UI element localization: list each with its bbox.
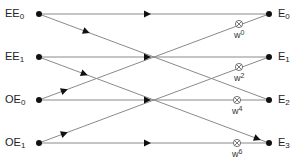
- output-label-e0: E0: [278, 8, 290, 21]
- multiply-icon: [233, 139, 240, 146]
- arrow-icon: [144, 140, 151, 147]
- input-label-oe0: OE0: [5, 94, 25, 107]
- twiddle-label-w2: w2: [234, 72, 244, 83]
- output-label-e1: E1: [278, 51, 290, 64]
- butterfly-diagram: [0, 0, 299, 164]
- input-label-ee0: EE0: [5, 8, 24, 21]
- arrow-icon: [144, 11, 151, 18]
- twiddle-label-w0: w0: [234, 29, 244, 40]
- node-e1: [266, 54, 272, 60]
- input-label-oe1: OE1: [5, 137, 25, 150]
- node-ee0: [36, 11, 42, 17]
- node-ee1: [36, 54, 42, 60]
- output-label-e3: E3: [278, 137, 290, 150]
- multiply-icon: [235, 20, 242, 27]
- input-label-ee1: EE1: [5, 51, 24, 64]
- node-e3: [266, 140, 272, 146]
- arrow-icon: [80, 69, 89, 78]
- arrow-icon: [60, 86, 69, 95]
- arrow-icon: [60, 129, 69, 138]
- multiply-icon: [233, 96, 240, 103]
- twiddle-label-w6: w6: [232, 148, 242, 159]
- node-e2: [266, 97, 272, 103]
- node-e0: [266, 11, 272, 17]
- twiddle-label-w4: w4: [232, 105, 242, 116]
- node-oe0: [36, 97, 42, 103]
- arrow-icon: [253, 134, 262, 143]
- multiply-icon: [235, 63, 242, 70]
- arrow-icon: [82, 27, 91, 36]
- node-oe1: [36, 140, 42, 146]
- output-label-e2: E2: [278, 94, 290, 107]
